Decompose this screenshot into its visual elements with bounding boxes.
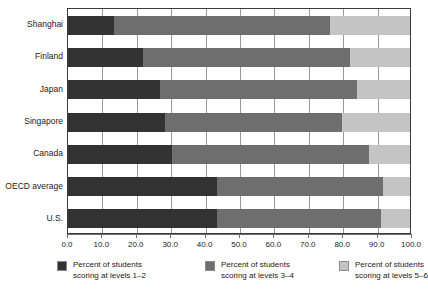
x-axis-tick-labels: 0.010.020.030.040.050.060.070.080.090.01…: [0, 240, 427, 254]
bar-row: [68, 80, 410, 99]
category-label-u-s: U.S.: [0, 213, 63, 223]
x-axis-tick: [170, 234, 171, 238]
x-axis-tick-label: 60.0: [256, 240, 290, 250]
category-label-finland: Finland: [0, 51, 63, 61]
bar-segment-series-2: [217, 209, 381, 228]
bar-segment-series-3: [381, 209, 410, 228]
x-axis-tick: [136, 234, 137, 238]
x-axis-tick: [342, 234, 343, 238]
bar-row: [68, 16, 410, 35]
bar-segment-series-3: [330, 16, 410, 35]
x-axis-tick-label: 80.0: [325, 240, 359, 250]
category-label-canada: Canada: [0, 148, 63, 158]
legend-item-3: Percent of studentsscoring at levels 5–6: [339, 260, 428, 281]
bar-segment-series-1: [68, 48, 143, 67]
bar-rows: [68, 9, 410, 233]
category-label-oecd-average: OECD average: [0, 181, 63, 191]
x-axis-tick-label: 70.0: [291, 240, 325, 250]
legend-label: Percent of studentsscoring at levels 1–2: [73, 260, 146, 281]
legend-swatch-icon: [57, 261, 67, 271]
bar-row: [68, 145, 410, 164]
bar-segment-series-1: [68, 80, 160, 99]
legend-item-1: Percent of studentsscoring at levels 1–2: [57, 260, 146, 281]
x-axis-tick-label: 40.0: [188, 240, 222, 250]
plot-area: [67, 8, 411, 234]
category-axis-labels: ShanghaiFinlandJapanSingaporeCanadaOECD …: [0, 8, 63, 234]
legend-label: Percent of studentsscoring at levels 3–4: [221, 260, 294, 281]
x-axis-tick-label: 90.0: [360, 240, 394, 250]
x-axis-tick-label: 100.0: [394, 240, 428, 250]
x-axis-tick-label: 0.0: [50, 240, 84, 250]
category-label-singapore: Singapore: [0, 116, 63, 126]
bar-segment-series-2: [114, 16, 329, 35]
category-label-japan: Japan: [0, 84, 63, 94]
bar-segment-series-3: [369, 145, 410, 164]
bar-segment-series-3: [342, 113, 410, 132]
x-axis-tick-label: 30.0: [153, 240, 187, 250]
legend-item-2: Percent of studentsscoring at levels 3–4: [205, 260, 294, 281]
x-axis-tick-label: 10.0: [84, 240, 118, 250]
bar-segment-series-1: [68, 177, 217, 196]
x-axis-tick: [101, 234, 102, 238]
chart-legend: Percent of studentsscoring at levels 1–2…: [57, 260, 419, 294]
x-axis-tick: [308, 234, 309, 238]
bar-segment-series-3: [383, 177, 410, 196]
x-axis-tick: [377, 234, 378, 238]
legend-swatch-icon: [339, 261, 349, 271]
bar-row: [68, 177, 410, 196]
x-axis-tick-label: 20.0: [119, 240, 153, 250]
bar-segment-series-2: [172, 145, 369, 164]
legend-label: Percent of studentsscoring at levels 5–6: [355, 260, 428, 281]
bar-segment-series-3: [357, 80, 410, 99]
bar-row: [68, 48, 410, 67]
x-axis-tick: [273, 234, 274, 238]
bar-segment-series-1: [68, 113, 165, 132]
bar-segment-series-2: [165, 113, 341, 132]
x-axis-tick: [239, 234, 240, 238]
bar-segment-series-2: [160, 80, 357, 99]
legend-swatch-icon: [205, 261, 215, 271]
bar-segment-series-1: [68, 145, 172, 164]
bar-segment-series-1: [68, 16, 114, 35]
category-label-shanghai: Shanghai: [0, 19, 63, 29]
bar-segment-series-3: [350, 48, 410, 67]
x-axis-tick: [205, 234, 206, 238]
bar-segment-series-2: [143, 48, 350, 67]
bar-segment-series-2: [217, 177, 383, 196]
bar-row: [68, 113, 410, 132]
bar-row: [68, 209, 410, 228]
x-axis-tick-label: 50.0: [222, 240, 256, 250]
x-axis-tick: [411, 234, 412, 238]
bar-segment-series-1: [68, 209, 217, 228]
x-axis-tick: [67, 234, 68, 238]
